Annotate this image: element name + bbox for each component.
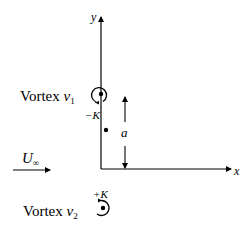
y-axis-label: y xyxy=(90,10,97,24)
distance-label: a xyxy=(121,125,128,140)
image-point-dot xyxy=(104,128,108,132)
vortex1-label: Vortex v1 xyxy=(20,88,75,106)
vortex-diagram: y x Vortex v1 −K a U∞ +K Vortex v2 xyxy=(0,0,249,230)
vortex1-clockwise-icon xyxy=(92,88,107,105)
vortex2-counterclockwise-icon xyxy=(97,199,109,216)
vortex2-strength: +K xyxy=(93,188,108,200)
freestream-label: U∞ xyxy=(22,150,39,168)
x-axis-label: x xyxy=(233,164,240,178)
vortex1-strength: −K xyxy=(85,109,100,121)
vortex2-label: Vortex v2 xyxy=(23,203,78,221)
